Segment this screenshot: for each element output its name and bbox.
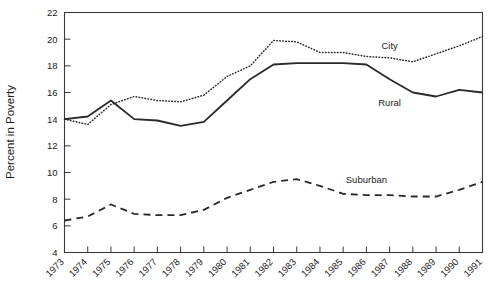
y-tick-label: 6 [52,220,57,231]
x-tick-label: 1979 [183,256,206,279]
y-tick-label: 20 [47,34,58,45]
x-tick-label: 1985 [322,256,345,279]
y-tick-label: 10 [47,167,58,178]
x-axis-tickmarks [65,247,483,253]
y-tick-label: 16 [47,87,58,98]
y-tick-label: 18 [47,60,58,71]
series-inline-labels: CityRuralSuburban [346,40,401,186]
x-tick-label: 1978 [159,256,182,279]
x-tick-label: 1974 [66,256,89,279]
chart-canvas: 46810121416182022 1973197419751976197719… [0,0,494,294]
series-label-suburban: Suburban [346,174,387,185]
x-tick-label: 1988 [392,256,415,279]
x-tick-label: 1976 [113,256,136,279]
x-tick-label: 1991 [461,256,484,279]
x-tick-label: 1981 [229,256,252,279]
y-axis-tickmarks [65,13,71,253]
y-tick-label: 12 [47,140,58,151]
plot-frame [65,13,483,253]
y-axis-title-group: Percent in Poverty [4,85,16,179]
series-line-rural [65,63,483,126]
series-line-suburban [65,179,483,220]
series-label-rural: Rural [378,97,401,108]
x-tick-label: 1977 [136,256,159,279]
x-tick-label: 1973 [43,256,66,279]
x-axis-tick-labels: 1973197419751976197719781979198019811982… [43,256,484,279]
poverty-line-chart-figure: 46810121416182022 1973197419751976197719… [0,0,494,294]
x-tick-label: 1989 [415,256,438,279]
x-tick-label: 1982 [252,256,275,279]
x-tick-label: 1984 [299,256,322,279]
y-tick-label: 22 [47,7,58,18]
y-tick-label: 14 [47,114,58,125]
x-tick-label: 1990 [438,256,461,279]
x-tick-label: 1975 [90,256,113,279]
y-tick-label: 8 [52,194,57,205]
y-axis-title: Percent in Poverty [4,85,16,179]
series-line-city [65,37,483,125]
y-axis-tick-labels: 46810121416182022 [47,7,58,258]
x-tick-label: 1983 [275,256,298,279]
x-tick-label: 1980 [206,256,229,279]
plot-area-border [65,13,483,253]
x-tick-label: 1987 [368,256,391,279]
series-label-city: City [381,40,398,51]
x-tick-label: 1986 [345,256,368,279]
data-series-group [65,37,483,221]
